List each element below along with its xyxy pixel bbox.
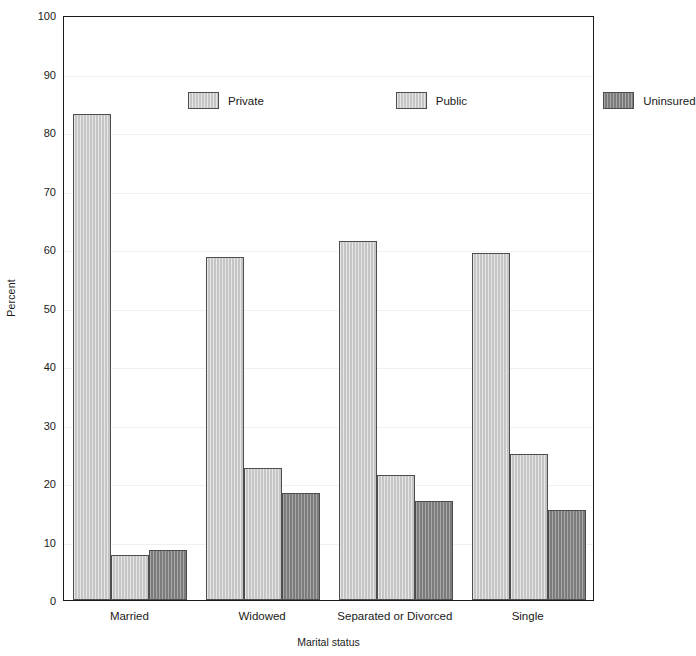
y-axis-title: Percent xyxy=(5,263,17,333)
legend-swatch-icon xyxy=(396,92,427,109)
x-axis-title: Marital status xyxy=(63,636,594,648)
bar-public[interactable] xyxy=(377,475,415,600)
bar-public[interactable] xyxy=(244,468,282,600)
legend: PrivatePublicUninsured xyxy=(188,92,696,109)
y-axis-tick-label: 70 xyxy=(16,186,56,198)
y-axis-tick-label: 90 xyxy=(16,69,56,81)
legend-label: Uninsured xyxy=(643,95,695,107)
y-axis-tick-label: 40 xyxy=(16,361,56,373)
x-axis-tick-label: Single xyxy=(512,610,544,622)
y-axis-tick-label: 60 xyxy=(16,244,56,256)
bar-uninsured[interactable] xyxy=(149,550,187,600)
x-axis-tick-label: Married xyxy=(110,610,149,622)
y-axis-tick-label: 100 xyxy=(16,10,56,22)
y-axis-tick-label: 10 xyxy=(16,537,56,549)
y-axis-tick-label: 80 xyxy=(16,127,56,139)
legend-label: Private xyxy=(228,95,264,107)
legend-entry-private[interactable]: Private xyxy=(188,92,264,109)
bar-public[interactable] xyxy=(510,454,548,600)
legend-swatch-icon xyxy=(188,92,219,109)
y-axis-tick-label: 20 xyxy=(16,478,56,490)
bar-uninsured[interactable] xyxy=(548,510,586,600)
x-axis-tick-labels: MarriedWidowedSeparated or DivorcedSingl… xyxy=(63,610,594,628)
y-axis-tick-label: 30 xyxy=(16,420,56,432)
x-axis-tick-label: Widowed xyxy=(238,610,285,622)
legend-entry-uninsured[interactable]: Uninsured xyxy=(603,92,695,109)
y-axis-tick-label: 50 xyxy=(16,303,56,315)
x-axis-tick-label: Separated or Divorced xyxy=(337,610,452,622)
bar-private[interactable] xyxy=(206,257,244,600)
legend-label: Public xyxy=(436,95,467,107)
bar-uninsured[interactable] xyxy=(415,501,453,600)
bar-group xyxy=(73,17,187,600)
bar-private[interactable] xyxy=(73,114,111,600)
y-axis-tick-label: 0 xyxy=(16,595,56,607)
bar-uninsured[interactable] xyxy=(282,493,320,600)
bar-public[interactable] xyxy=(111,555,149,600)
bar-private[interactable] xyxy=(339,241,377,600)
legend-entry-public[interactable]: Public xyxy=(396,92,467,109)
bar-private[interactable] xyxy=(472,253,510,600)
legend-swatch-icon xyxy=(603,92,634,109)
